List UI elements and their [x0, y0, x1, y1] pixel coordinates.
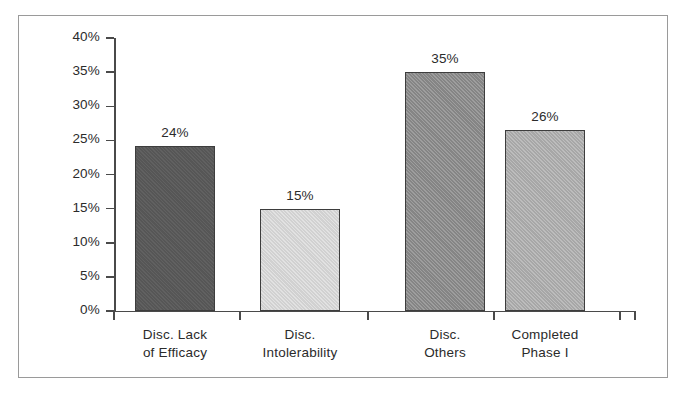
y-axis-tick [106, 71, 114, 73]
y-axis-tick-label: 30% [50, 97, 100, 112]
bar-value-label: 35% [405, 51, 485, 66]
x-axis-tick [367, 311, 369, 320]
y-axis-tick-label: 20% [50, 166, 100, 181]
bar [135, 146, 215, 311]
category-label: Disc. Lackof Efficacy [105, 326, 245, 362]
category-label: Disc.Intolerability [230, 326, 370, 362]
category-label-line: Intolerability [230, 344, 370, 362]
y-axis-line [114, 38, 116, 312]
category-label-line: Phase I [475, 344, 615, 362]
x-axis-tick [493, 311, 495, 320]
x-axis-tick [619, 311, 621, 320]
x-axis-tick [113, 311, 115, 320]
bar [405, 72, 485, 311]
y-axis-tick [106, 140, 114, 142]
bar [260, 209, 340, 311]
y-axis-tick [106, 208, 114, 210]
y-axis-tick [106, 106, 114, 108]
bar-value-label: 24% [135, 125, 215, 140]
bar [505, 130, 585, 311]
category-label-line: Disc. Lack [105, 326, 245, 344]
y-axis-tick-label: 40% [50, 29, 100, 44]
y-axis-tick [106, 242, 114, 244]
y-axis-tick [106, 276, 114, 278]
category-label-line: Disc. [230, 326, 370, 344]
category-label: CompletedPhase I [475, 326, 615, 362]
y-axis-tick-label: 25% [50, 131, 100, 146]
y-axis-tick-label: 10% [50, 234, 100, 249]
y-axis-tick [106, 174, 114, 176]
x-axis-tick [634, 311, 636, 320]
y-axis-tick [106, 37, 114, 39]
figure: 0%5%10%15%20%25%30%35%40% 24%15%35%26% D… [0, 0, 685, 393]
bar-value-label: 26% [505, 109, 585, 124]
y-axis-tick-label: 0% [50, 302, 100, 317]
y-axis-tick-label: 15% [50, 200, 100, 215]
category-label-line: of Efficacy [105, 344, 245, 362]
y-axis-tick-label: 5% [50, 268, 100, 283]
y-axis-tick-label: 35% [50, 63, 100, 78]
bar-chart-plot: 0%5%10%15%20%25%30%35%40% 24%15%35%26% D… [0, 0, 685, 393]
bar-value-label: 15% [260, 188, 340, 203]
x-axis-tick [239, 311, 241, 320]
category-label-line: Completed [475, 326, 615, 344]
